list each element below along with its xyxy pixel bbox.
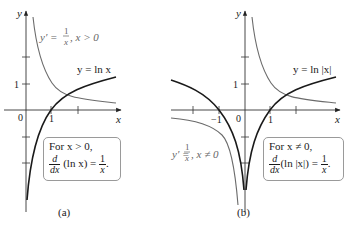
box-b-condition: For x ≠ 0, xyxy=(269,140,338,153)
svg-text:y′ =: y′ = xyxy=(39,31,57,43)
derivative-label-b: y′ = 1 x , x ≠ 0 xyxy=(171,142,219,163)
box-b-period: . xyxy=(328,157,331,169)
box-b-line1: For x ≠ 0, xyxy=(269,140,312,152)
caption-a: (a) xyxy=(58,206,70,218)
diagram-canvas: y x 0 1 1 y′ = 1 x , x > 0 y = ln x xyxy=(0,0,346,227)
box-a-expr: (ln x) = xyxy=(63,157,99,169)
one-over-x-b: 1x xyxy=(321,154,328,175)
derivative-curve-b-left xyxy=(171,118,238,205)
y-tick-label-a: 1 xyxy=(14,79,19,90)
box-a-formula: ddx (ln x) = 1x. xyxy=(49,154,115,175)
derivative-rule-box-b: For x ≠ 0, ddx(ln |x|) = 1x. xyxy=(263,137,344,181)
x-axis-label-b: x xyxy=(334,113,340,125)
x-tick-label-a: 1 xyxy=(49,113,54,124)
panel-b: y x 0 1 −1 1 y′ = 1 x , x ≠ 0 y = ln |x| xyxy=(171,7,340,212)
box-a-line1: For x > 0, xyxy=(49,140,92,152)
svg-text:x: x xyxy=(184,153,189,163)
x-neg-tick-label-b: −1 xyxy=(211,114,222,125)
x-tick-label-b: 1 xyxy=(268,114,273,125)
function-curve-b-left xyxy=(171,80,244,190)
svg-text:, x > 0: , x > 0 xyxy=(70,31,99,43)
one-over-x-a: 1x xyxy=(99,154,106,175)
panel-a: y x 0 1 1 y′ = 1 x , x > 0 y = ln x xyxy=(4,7,121,212)
function-label-b: y = ln |x| xyxy=(293,63,331,75)
d-dx-a: ddx xyxy=(49,154,60,175)
svg-text:1: 1 xyxy=(64,26,69,36)
caption-b: (b) xyxy=(237,206,250,218)
svg-text:, x ≠ 0: , x ≠ 0 xyxy=(191,148,219,160)
d-dx-b: ddx xyxy=(269,154,280,175)
derivative-label-a: y′ = 1 x , x > 0 xyxy=(39,26,99,47)
origin-label-a: 0 xyxy=(18,112,23,123)
box-b-expr: (ln |x|) = xyxy=(280,157,320,169)
box-b-formula: ddx(ln |x|) = 1x. xyxy=(269,154,338,175)
x-axis-label-a: x xyxy=(115,113,121,125)
derivative-rule-box-a: For x > 0, ddx (ln x) = 1x. xyxy=(43,137,121,181)
y-tick-label-b: 1 xyxy=(233,79,238,90)
box-a-period: . xyxy=(106,157,109,169)
y-axis-label-a: y xyxy=(16,7,22,19)
box-a-condition: For x > 0, xyxy=(49,140,115,153)
y-axis-label-b: y xyxy=(235,7,241,19)
svg-text:1: 1 xyxy=(185,142,190,152)
function-label-a: y = ln x xyxy=(77,63,112,75)
origin-label-b: 0 xyxy=(236,113,241,124)
svg-text:x: x xyxy=(63,37,68,47)
